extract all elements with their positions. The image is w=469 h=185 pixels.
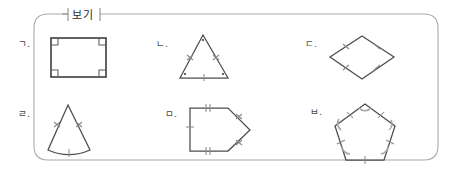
congruence-ticks-b [187, 55, 219, 81]
congruence-ticks-c [343, 44, 380, 70]
item-label-b: ㄴ. [156, 38, 168, 49]
figure-regular-pentagon: ㅂ. [310, 104, 395, 164]
item-label-d: ㄹ. [18, 108, 30, 119]
figure-rectangle: ㄱ. [18, 38, 106, 77]
item-label-c: ㄷ. [305, 38, 317, 49]
item-label-f: ㅂ. [310, 106, 322, 117]
right-angle-marks-a [51, 38, 106, 77]
figure-right-pointing-pentagon: ㅁ. [165, 104, 250, 155]
item-label-e: ㅁ. [165, 108, 177, 119]
figure-rhombus: ㄷ. [305, 36, 394, 79]
worksheet-board: 보기 ㄱ. ㄴ. [0, 0, 469, 185]
worksheet-frame [34, 8, 438, 160]
angle-arcs-f [338, 108, 392, 154]
congruence-ticks-e [186, 104, 242, 155]
item-label-a: ㄱ. [18, 38, 30, 49]
figure-circular-sector: ㄹ. [18, 105, 90, 157]
figure-isosceles-triangle: ㄴ. [156, 35, 228, 81]
worksheet-canvas: 보기 ㄱ. ㄴ. [0, 0, 469, 185]
legend-label: 보기 [72, 9, 93, 22]
